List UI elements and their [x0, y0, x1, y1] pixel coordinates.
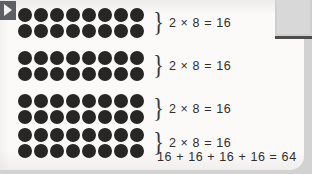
dot	[18, 24, 32, 38]
dot	[34, 67, 48, 81]
dot	[34, 128, 48, 142]
dot-grid-4	[18, 128, 144, 158]
dot	[50, 67, 64, 81]
dot-grid-3	[18, 94, 144, 124]
dot	[98, 24, 112, 38]
dot	[18, 144, 32, 158]
dot-grid-2	[18, 51, 144, 81]
dot	[98, 51, 112, 65]
dot	[82, 144, 96, 158]
dot	[34, 51, 48, 65]
dot-row	[18, 51, 144, 65]
right-arrow-marker-icon	[0, 1, 20, 21]
dot	[82, 110, 96, 124]
dot	[18, 8, 32, 22]
dot	[34, 24, 48, 38]
dot-row	[18, 144, 144, 158]
dot	[50, 24, 64, 38]
dot	[50, 51, 64, 65]
dot	[114, 144, 128, 158]
dot	[66, 8, 80, 22]
dot	[98, 110, 112, 124]
dot	[50, 110, 64, 124]
dot	[114, 67, 128, 81]
dot-row	[18, 94, 144, 108]
arrow-notch	[4, 4, 12, 16]
group-equation-4: 2 × 8 = 16	[169, 136, 231, 150]
dot	[114, 51, 128, 65]
dot	[98, 67, 112, 81]
dot	[130, 94, 144, 108]
total-sum-expression: 16 + 16 + 16 + 16 = 64	[157, 150, 297, 164]
gray-corner-panel	[275, 0, 312, 39]
corner-panel-inner	[277, 0, 310, 34]
dot	[18, 67, 32, 81]
dot	[130, 51, 144, 65]
dot	[18, 128, 32, 142]
dot	[34, 8, 48, 22]
dot	[34, 144, 48, 158]
curly-brace-icon: }	[153, 12, 164, 34]
dot	[82, 8, 96, 22]
dot	[34, 110, 48, 124]
dot	[66, 24, 80, 38]
group-equation-1: 2 × 8 = 16	[169, 16, 231, 30]
dot-row	[18, 128, 144, 142]
group-equation-3: 2 × 8 = 16	[169, 102, 231, 116]
curly-brace-icon: }	[153, 55, 164, 77]
dot	[130, 144, 144, 158]
group-equation-2: 2 × 8 = 16	[169, 59, 231, 73]
dot	[98, 144, 112, 158]
dot-group-3: } 2 × 8 = 16	[18, 94, 231, 124]
dot-group-2: } 2 × 8 = 16	[18, 51, 231, 81]
dot-row	[18, 8, 144, 22]
dot-row	[18, 67, 144, 81]
dot	[98, 8, 112, 22]
curly-brace-icon: }	[153, 98, 164, 120]
dot	[98, 94, 112, 108]
dot	[130, 24, 144, 38]
dot	[66, 51, 80, 65]
dot	[18, 110, 32, 124]
dot	[130, 128, 144, 142]
dot	[34, 94, 48, 108]
dot-row	[18, 110, 144, 124]
dot	[50, 8, 64, 22]
dot	[130, 67, 144, 81]
dot-row	[18, 24, 144, 38]
dot	[82, 67, 96, 81]
dot	[98, 128, 112, 142]
dot	[18, 51, 32, 65]
dot	[82, 128, 96, 142]
dot	[114, 8, 128, 22]
dot	[82, 51, 96, 65]
dot	[66, 110, 80, 124]
dot	[66, 94, 80, 108]
dot	[66, 128, 80, 142]
dot	[114, 94, 128, 108]
dot	[66, 67, 80, 81]
dot-array-figure: } 2 × 8 = 16	[0, 0, 304, 170]
dot	[114, 128, 128, 142]
dot	[130, 8, 144, 22]
screenshot-root: } 2 × 8 = 16	[0, 0, 312, 174]
dot-group-1: } 2 × 8 = 16	[18, 8, 231, 38]
worksheet-page: } 2 × 8 = 16	[0, 0, 304, 170]
dot	[50, 128, 64, 142]
dot	[114, 110, 128, 124]
dot	[50, 144, 64, 158]
dot	[66, 144, 80, 158]
dot	[18, 94, 32, 108]
dot-grid-1	[18, 8, 144, 38]
dot	[82, 94, 96, 108]
dot	[50, 94, 64, 108]
dot	[82, 24, 96, 38]
dot	[114, 24, 128, 38]
dot	[130, 110, 144, 124]
